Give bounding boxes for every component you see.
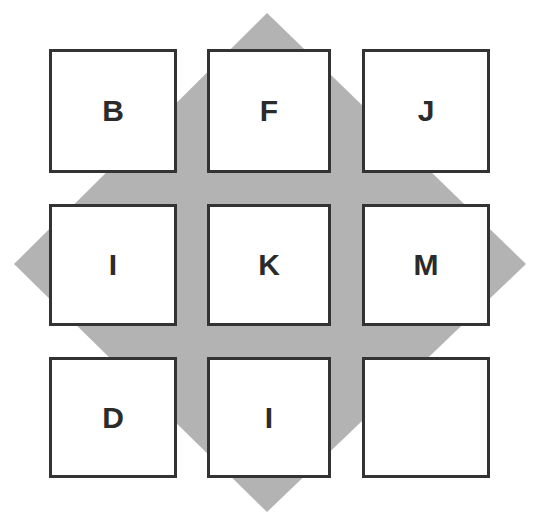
cell-r0-c1: F	[207, 49, 331, 173]
cell-letter: I	[109, 250, 117, 280]
cell-letter: I	[265, 403, 273, 433]
cell-letter: F	[260, 96, 278, 126]
cell-r1-c2: M	[362, 204, 490, 326]
cell-r2-c1: I	[207, 357, 331, 478]
cell-letter: J	[418, 96, 435, 126]
cell-letter: B	[102, 96, 124, 126]
cell-letter: D	[102, 403, 124, 433]
cell-r1-c1: K	[207, 204, 331, 326]
cell-letter: K	[258, 250, 280, 280]
cell-r2-c2-empty	[362, 357, 490, 478]
cell-r2-c0: D	[49, 357, 177, 478]
cell-r0-c0: B	[49, 49, 177, 173]
cell-r1-c0: I	[49, 204, 177, 326]
cell-letter: M	[414, 250, 439, 280]
cell-r0-c2: J	[362, 49, 490, 173]
